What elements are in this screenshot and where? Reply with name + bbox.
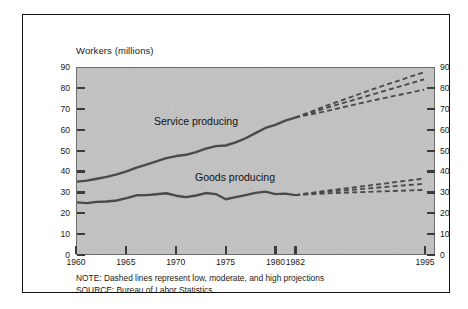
- series-goods-producing: [77, 192, 295, 204]
- x-axis-label-1960: 1960: [66, 258, 85, 267]
- y-axis-label-left-40: 40: [44, 167, 70, 175]
- x-axis-label-1980: 1980: [266, 258, 285, 267]
- y-axis-label-right-80: 80: [440, 84, 466, 92]
- y-tickmark-right-50: [427, 150, 435, 152]
- y-axis-label-right-60: 60: [440, 126, 466, 134]
- x-axis-label-1982: 1982: [286, 258, 305, 267]
- y-axis-label-left-30: 30: [44, 188, 70, 196]
- y-axis-label-left-80: 80: [44, 84, 70, 92]
- y-tickmark-right-30: [427, 191, 435, 193]
- y-tickmark-right-40: [427, 170, 435, 172]
- y-axis-label-right-20: 20: [440, 209, 466, 217]
- series-label-goods: Goods producing: [195, 171, 275, 183]
- y-tickmark-right-10: [427, 233, 435, 235]
- y-axis-label-right-30: 30: [440, 188, 466, 196]
- y-tickmark-left-50: [77, 150, 85, 152]
- y-tickmark-left-60: [77, 129, 85, 131]
- plot-lines: [77, 68, 434, 254]
- y-tickmark-left-40: [77, 170, 85, 172]
- y-axis-label-right-0: 0: [440, 251, 466, 259]
- chart-title: Workers (millions): [76, 45, 154, 56]
- x-tickmark-1980: [274, 246, 276, 254]
- y-axis-label-right-40: 40: [440, 167, 466, 175]
- plot-area: [76, 67, 435, 255]
- chart-footnotes: NOTE: Dashed lines represent low, modera…: [76, 273, 324, 296]
- y-axis-label-left-20: 20: [44, 209, 70, 217]
- y-tickmark-right-60: [427, 129, 435, 131]
- y-tickmark-left-0: [77, 254, 85, 256]
- y-axis-label-right-70: 70: [440, 105, 466, 113]
- y-tickmark-left-10: [77, 233, 85, 235]
- y-tickmark-left-70: [77, 108, 85, 110]
- y-axis-label-left-50: 50: [44, 147, 70, 155]
- y-tickmark-right-80: [427, 87, 435, 89]
- x-axis-label-1965: 1965: [116, 258, 135, 267]
- y-axis-label-right-10: 10: [440, 230, 466, 238]
- x-tickmark-1965: [125, 246, 127, 254]
- x-tickmark-1995: [424, 246, 426, 254]
- y-tickmark-right-20: [427, 212, 435, 214]
- x-tickmark-1982: [294, 246, 296, 254]
- y-axis-label-left-90: 90: [44, 63, 70, 71]
- y-axis-label-left-70: 70: [44, 105, 70, 113]
- footnote-source: SOURCE: Bureau of Labor Statistics: [76, 285, 324, 297]
- y-axis-label-left-10: 10: [44, 230, 70, 238]
- x-tickmark-1960: [75, 246, 77, 254]
- y-tickmark-right-70: [427, 108, 435, 110]
- y-axis-label-left-60: 60: [44, 126, 70, 134]
- y-tickmark-left-80: [77, 87, 85, 89]
- y-tickmark-left-30: [77, 191, 85, 193]
- x-tickmark-1970: [175, 246, 177, 254]
- x-tickmark-1975: [225, 246, 227, 254]
- figure-container: Workers (millions) Service producing Goo…: [0, 0, 468, 309]
- y-tickmark-right-0: [427, 254, 435, 256]
- series-label-service: Service producing: [154, 115, 238, 127]
- y-axis-label-right-90: 90: [440, 63, 466, 71]
- footnote-note: NOTE: Dashed lines represent low, modera…: [76, 273, 324, 285]
- series-service-producing-moderate-projection: [295, 79, 424, 117]
- y-axis-label-right-50: 50: [440, 147, 466, 155]
- x-axis-label-1975: 1975: [216, 258, 235, 267]
- y-tickmark-left-20: [77, 212, 85, 214]
- x-axis-label-1995: 1995: [415, 258, 434, 267]
- chart-frame: Workers (millions) Service producing Goo…: [22, 14, 450, 293]
- x-axis-label-1970: 1970: [166, 258, 185, 267]
